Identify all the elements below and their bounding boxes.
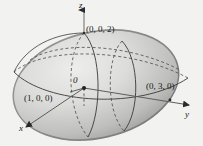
x-intercept-label: (1, 0, 0) bbox=[24, 94, 53, 103]
z-intercept-point bbox=[83, 32, 85, 34]
y-intercept-point bbox=[169, 99, 172, 102]
z-intercept-label: (0, 0, 2) bbox=[86, 25, 115, 34]
y-axis-label: y bbox=[185, 110, 189, 119]
x-axis-label: x bbox=[19, 124, 23, 133]
origin-label: 0 bbox=[73, 76, 78, 85]
figure-panel: z y x 0 (0, 0, 2) (0, 3, 0) (1, 0, 0) bbox=[0, 0, 203, 146]
y-intercept-label: (0, 3, 0) bbox=[146, 82, 175, 91]
ellipsoid-diagram bbox=[0, 0, 203, 146]
z-axis-label: z bbox=[79, 1, 83, 10]
